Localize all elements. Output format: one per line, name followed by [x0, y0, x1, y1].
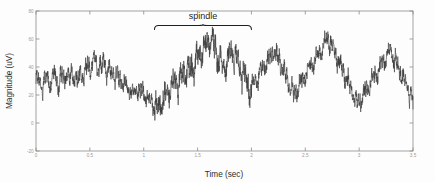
x-axis-title: Time (sec) [205, 170, 244, 179]
y-axis-title: Magnitude (uV) [5, 53, 14, 109]
y-tick-label: 0 [31, 121, 34, 126]
eeg-spindle-figure: -20020406080 00.511.522.533.5 spindle Ti… [0, 0, 435, 182]
x-tick-label: 3.5 [410, 153, 417, 158]
x-tick-label: 2.5 [302, 153, 309, 158]
y-tick-label: 80 [28, 9, 34, 14]
spindle-annotation: spindle [154, 11, 251, 30]
x-axis-ticks: 00.511.522.533.5 [35, 11, 417, 158]
x-tick-label: 0.5 [87, 153, 94, 158]
y-tick-label: 20 [28, 93, 34, 98]
plot-frame [36, 11, 413, 151]
y-axis-ticks: -20020406080 [27, 9, 413, 154]
y-tick-label: 60 [28, 37, 34, 42]
x-tick-label: 1.5 [194, 153, 201, 158]
y-tick-label: 40 [28, 65, 34, 70]
chart-canvas: -20020406080 00.511.522.533.5 spindle Ti… [0, 0, 435, 182]
y-tick-label: -20 [27, 149, 34, 154]
spindle-brace [154, 25, 251, 30]
x-tick-label: 0 [35, 153, 38, 158]
x-tick-label: 1 [142, 153, 145, 158]
signal-group [36, 27, 413, 121]
x-tick-label: 2 [250, 153, 253, 158]
eeg-signal-line [36, 27, 413, 121]
x-tick-label: 3 [358, 153, 361, 158]
spindle-label: spindle [189, 11, 218, 21]
plot-area-border [36, 11, 413, 151]
